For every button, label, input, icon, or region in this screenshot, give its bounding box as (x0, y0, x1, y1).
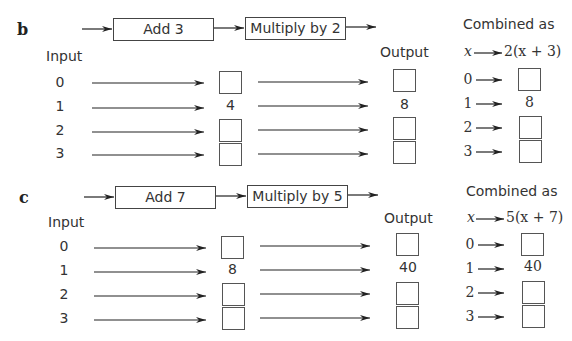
output-header: Output (384, 210, 433, 226)
input-value: 3 (54, 145, 66, 161)
output-header: Output (380, 44, 429, 60)
answer-box[interactable] (396, 282, 419, 305)
function-box-add: Add 7 (115, 186, 216, 209)
answer-box[interactable] (518, 68, 541, 91)
input-value: 1 (54, 98, 66, 114)
combined-input: 2 (464, 284, 476, 300)
input-header: Input (46, 48, 82, 64)
combined-input: 0 (462, 71, 474, 87)
answer-box[interactable] (521, 233, 544, 256)
combined-expression: 5(x + 7) (506, 209, 563, 225)
arrow-layer (0, 0, 572, 341)
answer-box[interactable] (222, 283, 245, 306)
answer-box[interactable] (519, 116, 542, 139)
middle-value: 4 (219, 97, 242, 113)
answer-box[interactable] (393, 141, 416, 164)
answer-box[interactable] (393, 69, 416, 92)
combined-input: 3 (464, 308, 476, 324)
function-box-add: Add 3 (113, 18, 214, 41)
answer-box[interactable] (396, 306, 419, 329)
section-letter: c (19, 188, 29, 207)
combined-value: 8 (518, 94, 541, 110)
input-value: 3 (58, 310, 70, 326)
middle-value: 8 (221, 261, 244, 277)
section-letter: b (17, 20, 28, 39)
answer-box[interactable] (393, 117, 416, 140)
combined-variable: x (467, 209, 475, 225)
output-value: 8 (393, 96, 416, 112)
input-value: 0 (54, 74, 66, 90)
answer-box[interactable] (219, 71, 242, 94)
answer-box[interactable] (522, 281, 545, 304)
answer-box[interactable] (221, 236, 244, 259)
input-value: 2 (54, 122, 66, 138)
combined-input: 1 (464, 260, 476, 276)
input-header: Input (48, 214, 84, 230)
combined-header: Combined as (466, 183, 557, 199)
output-value: 40 (393, 259, 423, 275)
combined-value: 40 (517, 258, 549, 274)
combined-input: 0 (464, 236, 476, 252)
combined-variable: x (464, 43, 472, 59)
answer-box[interactable] (219, 143, 242, 166)
function-box-multiply: Multiply by 2 (245, 17, 346, 40)
combined-expression: 2(x + 3) (504, 43, 561, 59)
combined-input: 3 (462, 143, 474, 159)
answer-box[interactable] (219, 119, 242, 142)
input-value: 0 (58, 238, 70, 254)
answer-box[interactable] (222, 307, 245, 330)
answer-box[interactable] (519, 140, 542, 163)
answer-box[interactable] (522, 305, 545, 328)
function-box-multiply: Multiply by 5 (247, 185, 348, 208)
answer-box[interactable] (396, 233, 419, 256)
combined-header: Combined as (463, 16, 554, 32)
input-value: 2 (58, 286, 70, 302)
input-value: 1 (58, 262, 70, 278)
combined-input: 2 (462, 119, 474, 135)
combined-input: 1 (462, 95, 474, 111)
